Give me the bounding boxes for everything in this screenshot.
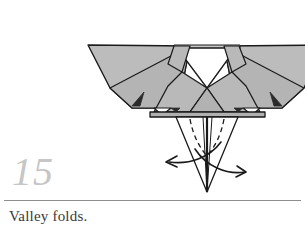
caption-text: Valley folds.	[9, 206, 87, 226]
paper-shapes	[88, 45, 305, 192]
step-number: 15	[12, 150, 54, 194]
fold-arrow-right-head	[236, 166, 246, 177]
page-root: origami-folding-diagram Origami model se…	[0, 0, 305, 231]
origami-diagram: origami-folding-diagram Origami model se…	[40, 16, 305, 216]
caption-divider	[4, 200, 301, 201]
body-base-band	[150, 112, 265, 117]
diagram-svg: origami-folding-diagram Origami model se…	[40, 16, 305, 216]
fold-arrow-left-head	[166, 156, 177, 167]
